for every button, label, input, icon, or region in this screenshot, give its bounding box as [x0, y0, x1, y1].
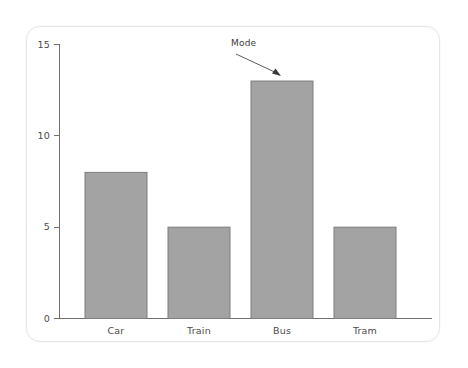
annotation-arrow-line — [236, 54, 279, 74]
x-tick-label-car: Car — [86, 325, 146, 336]
y-tick-label-0: 0 — [24, 313, 50, 324]
bar-bus[interactable] — [251, 81, 313, 318]
chart-plot-area: 15 10 5 0 Car Train Bus Tram Mode — [0, 0, 468, 368]
y-tick-label-5: 5 — [24, 221, 50, 232]
bar-tram[interactable] — [334, 227, 396, 318]
x-tick-label-bus: Bus — [252, 325, 312, 336]
x-tick-label-tram: Tram — [335, 325, 395, 336]
chart-screenshot: 15 10 5 0 Car Train Bus Tram Mode — [0, 0, 468, 368]
bar-car[interactable] — [85, 172, 147, 318]
x-tick-label-train: Train — [169, 325, 229, 336]
y-tick-label-10: 10 — [24, 130, 50, 141]
bar-train[interactable] — [168, 227, 230, 318]
annotation-arrow-head — [272, 69, 281, 77]
annotation-label-mode: Mode — [231, 38, 256, 48]
y-tick-label-15: 15 — [24, 39, 50, 50]
bar-chart-svg — [0, 0, 468, 368]
